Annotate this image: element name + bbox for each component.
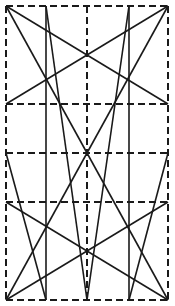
construction-diagram	[0, 0, 175, 306]
